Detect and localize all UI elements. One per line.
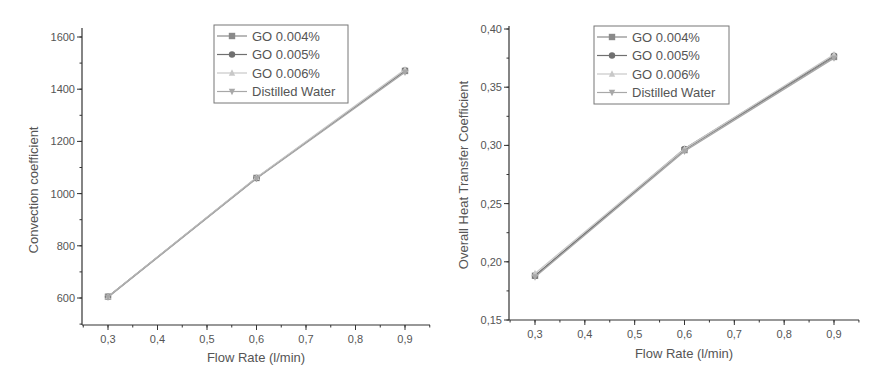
y-tick-label: 1600 <box>51 31 75 43</box>
circle-marker-icon <box>229 51 235 57</box>
x-tick-label: 0,7 <box>727 328 742 340</box>
x-tick-label: 0,8 <box>777 328 792 340</box>
legend-entry-label: GO 0.006% <box>632 67 700 82</box>
y-tick-label: 0,15 <box>481 314 502 326</box>
x-tick-label: 0,9 <box>397 333 412 345</box>
x-tick-label: 0,8 <box>348 333 363 345</box>
y-axis-title: Overall Heat Transfer Coefficient <box>456 80 471 269</box>
x-axis-title: Flow Rate (l/min) <box>207 350 305 365</box>
legend: GO 0.004%GO 0.005%GO 0.006%Distilled Wat… <box>594 26 729 104</box>
y-tick-label: 600 <box>57 292 75 304</box>
x-axis-title: Flow Rate (l/min) <box>635 346 733 361</box>
square-marker-icon <box>229 33 235 39</box>
y-tick-label: 0,35 <box>481 81 502 93</box>
legend-entry-label: GO 0.004% <box>632 30 700 45</box>
y-axis-title: Convection coefficient <box>26 126 41 253</box>
y-tick-label: 0,40 <box>481 23 502 35</box>
x-tick-label: 0,5 <box>199 333 214 345</box>
x-tick-label: 0,5 <box>627 328 642 340</box>
figure: 60080010001200140016000,30,40,50,60,70,8… <box>0 0 885 388</box>
y-tick-label: 1000 <box>51 188 75 200</box>
legend-entry-label: GO 0.006% <box>252 66 320 81</box>
legend-entry-label: Distilled Water <box>632 85 716 100</box>
y-tick-label: 1400 <box>51 83 75 95</box>
legend-entry-label: GO 0.005% <box>252 47 320 62</box>
y-tick-label: 0,25 <box>481 198 502 210</box>
x-tick-label: 0,7 <box>298 333 313 345</box>
legend-entry-label: GO 0.005% <box>632 48 700 63</box>
legend-entry-label: Distilled Water <box>252 84 336 99</box>
x-tick-label: 0,3 <box>527 328 542 340</box>
y-tick-label: 800 <box>57 240 75 252</box>
chart-2: 0,150,200,250,300,350,400,30,40,50,60,70… <box>456 23 859 361</box>
circle-marker-icon <box>609 52 615 58</box>
legend-entry-label: GO 0.004% <box>252 29 320 44</box>
x-tick-label: 0,9 <box>826 328 841 340</box>
x-tick-label: 0,6 <box>249 333 264 345</box>
x-tick-label: 0,6 <box>677 328 692 340</box>
chart-1: 60080010001200140016000,30,40,50,60,70,8… <box>26 25 430 365</box>
x-tick-label: 0,3 <box>100 333 115 345</box>
y-tick-label: 1200 <box>51 135 75 147</box>
legend: GO 0.004%GO 0.005%GO 0.006%Distilled Wat… <box>214 25 348 103</box>
y-tick-label: 0,20 <box>481 256 502 268</box>
x-tick-label: 0,4 <box>150 333 165 345</box>
y-tick-label: 0,30 <box>481 139 502 151</box>
square-marker-icon <box>609 34 615 40</box>
series-distilled-water <box>105 70 408 301</box>
x-tick-label: 0,4 <box>577 328 592 340</box>
